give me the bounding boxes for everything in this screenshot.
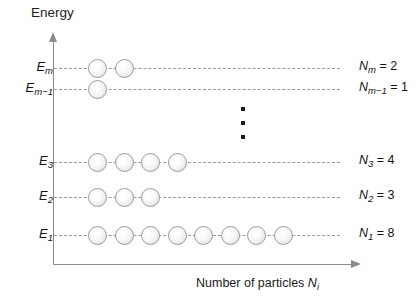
energy-level-label: Em — [36, 59, 53, 76]
particle-circle — [168, 153, 187, 172]
energy-level-label: E1 — [39, 226, 53, 243]
particle-circle — [88, 80, 107, 99]
particle-count-label: N3 = 4 — [359, 153, 395, 169]
x-axis-line — [53, 264, 353, 265]
ellipsis-dot — [241, 107, 245, 111]
ellipsis-dot — [241, 121, 245, 125]
particle-circle — [168, 226, 187, 245]
energy-level-subscript: m−1 — [34, 86, 53, 97]
energy-level-label: E2 — [39, 188, 53, 205]
particle-circle — [141, 188, 160, 207]
particle-circle — [115, 188, 134, 207]
particle-circle — [115, 153, 134, 172]
particle-circle — [88, 226, 107, 245]
particle-count-value: = 4 — [373, 153, 394, 167]
particle-circle — [221, 226, 240, 245]
energy-level-subscript: m — [45, 65, 53, 76]
energy-level-symbol: E — [39, 153, 48, 168]
particle-circle — [247, 226, 266, 245]
particle-circle — [274, 226, 293, 245]
particle-count-label: Nm = 2 — [359, 59, 397, 75]
particle-count-symbol: N — [359, 59, 368, 73]
energy-level-distribution-figure: Energy Number of particles Ni EmNm = 2Em… — [0, 0, 420, 301]
energy-level-label: Em−1 — [26, 80, 53, 97]
particle-circle — [194, 226, 213, 245]
x-axis-title: Number of particles Ni — [196, 276, 319, 292]
particle-count-label: Nm−1 = 1 — [359, 80, 408, 96]
energy-level-subscript: 1 — [48, 232, 53, 243]
y-axis-arrow-icon — [49, 32, 57, 42]
energy-level-label: E3 — [39, 153, 53, 170]
x-axis-title-symbol: N — [308, 276, 317, 290]
particle-count-symbol: N — [359, 188, 368, 202]
particle-count-symbol: N — [359, 80, 368, 94]
particle-circle — [115, 59, 134, 78]
particle-count-subscript: m−1 — [368, 85, 387, 96]
energy-level-symbol: E — [39, 188, 48, 203]
particle-count-label: N1 = 8 — [359, 226, 395, 242]
y-axis-line — [53, 41, 54, 265]
vertical-ellipsis-icon — [241, 107, 249, 149]
particle-count-label: N2 = 3 — [359, 188, 395, 204]
particle-count-value: = 8 — [373, 226, 394, 240]
x-axis-arrow-icon — [351, 260, 361, 268]
particle-count-subscript: m — [368, 64, 376, 75]
energy-level-symbol: E — [36, 59, 45, 74]
particle-circle — [141, 226, 160, 245]
x-axis-title-text: Number of particles — [196, 276, 308, 290]
particle-count-symbol: N — [359, 226, 368, 240]
particle-count-value: = 3 — [373, 188, 394, 202]
particle-circle — [115, 226, 134, 245]
particle-circle — [88, 153, 107, 172]
energy-level-subscript: 2 — [48, 194, 53, 205]
particle-circle — [141, 153, 160, 172]
x-axis-title-subscript: i — [317, 282, 319, 292]
y-axis-title: Energy — [31, 5, 74, 20]
particle-circle — [88, 188, 107, 207]
ellipsis-dot — [241, 135, 245, 139]
particle-count-value: = 2 — [376, 59, 397, 73]
particle-count-value: = 1 — [387, 80, 408, 94]
energy-level-symbol: E — [39, 226, 48, 241]
energy-level-symbol: E — [26, 80, 35, 95]
particle-circle — [88, 59, 107, 78]
particle-count-symbol: N — [359, 153, 368, 167]
energy-level-subscript: 3 — [48, 159, 53, 170]
